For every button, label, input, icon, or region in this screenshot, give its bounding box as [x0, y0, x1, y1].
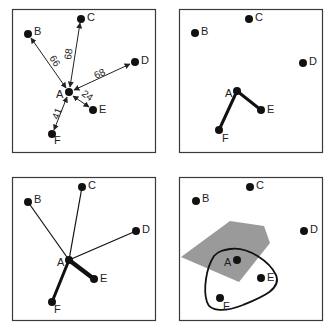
panel-region-cluster: A B C D E F [180, 178, 323, 321]
label-c: C [87, 11, 95, 23]
label-d: D [310, 223, 318, 235]
label-d: D [141, 54, 149, 66]
label-a: A [225, 87, 233, 99]
point-c [78, 183, 86, 191]
label-b: B [201, 25, 208, 37]
label-d: D [142, 223, 150, 235]
label-a: A [56, 88, 64, 100]
point-a [233, 87, 241, 95]
point-b [192, 197, 200, 205]
weight-label-a-c: 68 [62, 47, 75, 60]
point-e [257, 274, 265, 282]
diagram-canvas: 66 68 68 24 41 A B C D E F [0, 0, 335, 331]
label-f: F [54, 134, 61, 146]
point-c [77, 15, 85, 23]
panel-weighted-lines: A B C D E F [13, 178, 156, 321]
point-d [131, 58, 139, 66]
point-e [90, 275, 98, 283]
label-e: E [100, 272, 107, 284]
label-b: B [34, 193, 41, 205]
label-f: F [222, 132, 229, 144]
label-f: F [223, 300, 230, 312]
label-d: D [309, 55, 317, 67]
label-c: C [256, 179, 264, 191]
point-d [132, 227, 140, 235]
point-b [24, 198, 32, 206]
label-a: A [57, 256, 65, 268]
point-a [65, 256, 73, 264]
label-e: E [267, 103, 274, 115]
label-b: B [202, 192, 209, 204]
point-a [233, 256, 241, 264]
label-e: E [267, 271, 274, 283]
panel-nearest-neighbors: A B C D E F [180, 10, 323, 153]
point-c [246, 183, 254, 191]
label-c: C [255, 11, 263, 23]
point-b [191, 29, 199, 37]
point-e [257, 106, 265, 114]
point-a [65, 88, 73, 96]
label-c: C [88, 179, 96, 191]
point-d [300, 227, 308, 235]
point-b [24, 30, 32, 38]
point-d [299, 59, 307, 67]
label-e: E [99, 103, 106, 115]
point-c [245, 15, 253, 23]
point-e [89, 106, 97, 114]
panel-weighted-arrows: 66 68 68 24 41 A B C D E F [13, 10, 156, 153]
label-f: F [54, 303, 61, 315]
label-a: A [224, 256, 232, 268]
label-b: B [34, 25, 41, 37]
